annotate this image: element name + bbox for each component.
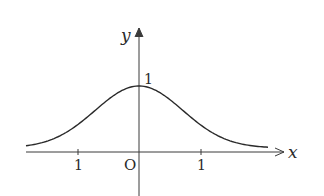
origin-label: O xyxy=(124,156,136,174)
x-tick-label-right: 1 xyxy=(197,157,206,173)
graph-canvas: x y O 1 1 1 xyxy=(0,0,324,196)
x-axis-label: x xyxy=(288,142,298,162)
bell-curve xyxy=(26,86,268,147)
y-axis-arrow-icon xyxy=(135,28,143,37)
x-tick-label-left: 1 xyxy=(74,157,83,173)
y-tick-label-1: 1 xyxy=(144,71,153,87)
y-axis-label: y xyxy=(120,25,131,45)
